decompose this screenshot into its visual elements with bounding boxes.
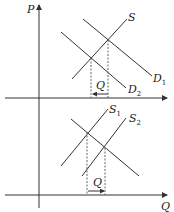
bottom-shift-label: Q (93, 176, 102, 189)
supply-curve-s1-label: S1 (109, 103, 121, 118)
supply-demand-diagram: P S D1 D2 Q Q S1 S2 Q (0, 0, 174, 212)
price-axis-label: P (26, 3, 35, 16)
quantity-axis-label: Q (161, 200, 170, 212)
demand-curve-d1-label: D1 (152, 72, 166, 87)
demand-curve-d1 (83, 19, 152, 76)
bottom-panel: Q S1 S2 Q (5, 103, 170, 212)
demand-curve-d2 (61, 32, 126, 88)
supply-curve-s2-label: S2 (129, 112, 141, 127)
supply-curve-s1 (61, 109, 108, 166)
top-panel: S D1 D2 Q (5, 11, 167, 98)
top-shift-label: Q (96, 79, 105, 92)
demand-curve-d2-label: D2 (127, 83, 141, 98)
supply-curve-s-label: S (128, 11, 136, 24)
